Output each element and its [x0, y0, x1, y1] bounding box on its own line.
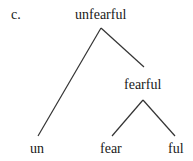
- leaf-un: un: [30, 142, 44, 156]
- edge-fearful-ful: [143, 100, 175, 136]
- node-root: unfearful: [75, 8, 126, 22]
- leaf-fear: fear: [100, 142, 122, 156]
- edge-fearful-fear: [112, 100, 143, 136]
- node-inner: fearful: [124, 78, 161, 92]
- example-label: c.: [11, 8, 21, 22]
- tree-edges: [0, 0, 193, 161]
- leaf-ful: ful: [168, 142, 184, 156]
- edge-root-fearful: [101, 28, 144, 67]
- edge-root-un: [38, 28, 101, 136]
